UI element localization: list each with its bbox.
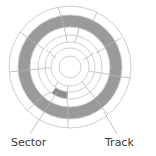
sector-label: Sector [11,137,46,148]
track-label: Track [105,137,134,148]
highlighted-track [18,15,122,119]
track-leader-line [104,112,117,134]
disk-diagram [0,0,156,156]
